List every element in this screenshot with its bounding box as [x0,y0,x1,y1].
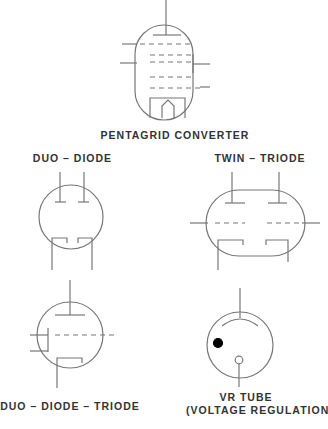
voltage-regulation-label: (VOLTAGE REGULATION) [186,404,328,416]
pentagrid-converter-symbol [120,0,210,120]
pentagrid-converter-label: PENTAGRID CONVERTER [95,129,255,141]
vr-tube-label: VR TUBE [196,391,296,403]
vr-tube-symbol [207,288,273,387]
twin-triode-label: TWIN – TRIODE [210,152,310,164]
duo-diode-label: DUO – DIODE [30,152,115,164]
twin-triode-symbol [190,172,320,270]
duo-diode-symbol [39,172,103,270]
duo-diode-triode-label: DUO – DIODE – TRIODE [0,400,140,412]
tube-symbols-diagram [0,0,328,429]
duo-diode-triode-symbol [30,280,115,388]
